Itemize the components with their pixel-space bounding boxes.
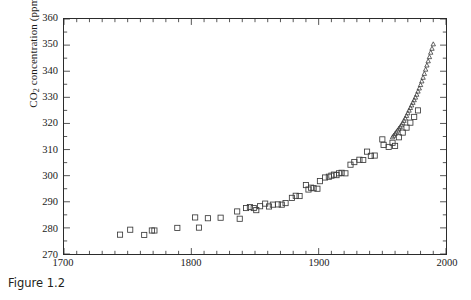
x-axis-tick-label: 1700 (53, 257, 74, 269)
data-point (317, 179, 322, 184)
y-axis-tick-label: 340 (42, 65, 58, 76)
x-axis-tick-label: 1900 (309, 257, 330, 269)
data-point (372, 153, 377, 158)
plot-area (63, 18, 447, 255)
data-point (429, 50, 433, 54)
data-point (422, 71, 426, 75)
data-point (430, 46, 434, 50)
data-point (412, 98, 416, 102)
data-point (409, 103, 413, 107)
figure-caption: Figure 1.2 (8, 276, 65, 290)
y-axis-tick-label: 320 (42, 118, 58, 129)
data-point (297, 193, 302, 198)
data-point (175, 225, 180, 230)
data-point (413, 95, 417, 99)
x-axis-tick-label: 2000 (437, 257, 458, 269)
data-point (408, 120, 413, 125)
data-point (193, 215, 198, 220)
y-axis-tick-label: 310 (42, 144, 58, 155)
data-point (235, 209, 240, 214)
data-point (357, 157, 362, 162)
data-point (412, 114, 417, 119)
y-axis-tick-label: 280 (42, 223, 58, 234)
data-point (283, 201, 288, 206)
data-point (406, 111, 410, 115)
data-point (380, 137, 385, 142)
data-point (293, 193, 298, 198)
data-point (404, 113, 408, 117)
data-point (403, 116, 407, 120)
x-axis-tick-label: 1800 (181, 257, 202, 269)
data-point (237, 216, 242, 221)
data-point (218, 215, 223, 220)
data-point (289, 195, 294, 200)
data-point (423, 67, 427, 71)
data-point (431, 42, 435, 46)
plot-canvas (64, 19, 446, 254)
data-point (426, 59, 430, 63)
data-point (381, 142, 386, 147)
data-point (128, 227, 133, 232)
y-axis-tick-label: 330 (42, 92, 58, 103)
data-point (258, 204, 263, 209)
x-axis-tick-labels: 1700180019002000 (0, 257, 471, 277)
data-point (421, 75, 425, 79)
y-axis-tick-labels: 270280290300310320330340350360 (0, 0, 63, 300)
y-axis-tick-label: 290 (42, 197, 58, 208)
data-point (404, 125, 409, 130)
series-1 (117, 108, 420, 238)
data-point (205, 216, 210, 221)
data-point (142, 232, 147, 237)
data-point (407, 108, 411, 112)
data-point (427, 55, 431, 59)
y-axis-tick-label: 300 (42, 171, 58, 182)
figure-container: CO2 concentration (ppmv) 270280290300310… (0, 0, 471, 300)
data-point (279, 202, 284, 207)
data-point (117, 232, 122, 237)
y-axis-tick-label: 350 (42, 39, 58, 50)
data-point (196, 225, 201, 230)
data-point (425, 63, 429, 67)
y-axis-tick-label: 360 (42, 13, 58, 24)
data-point (415, 108, 420, 113)
data-point (275, 202, 280, 207)
data-point (361, 157, 366, 162)
axis-ticks (64, 19, 446, 254)
data-point (411, 100, 415, 104)
data-point (270, 202, 275, 207)
data-point (408, 106, 412, 110)
